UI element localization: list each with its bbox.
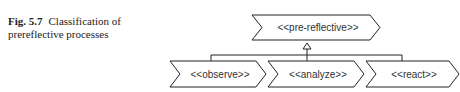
- generalization-connector: [211, 43, 402, 61]
- child-node-label: <<analyze>>: [289, 69, 347, 80]
- child-node-label: <<observe>>: [191, 69, 250, 80]
- child-node-analyze: <<analyze>>: [268, 61, 364, 87]
- child-node-react: <<react>>: [366, 61, 459, 87]
- child-node-observe: <<observe>>: [170, 61, 266, 87]
- inheritance-triangle-icon: [303, 43, 311, 49]
- classification-diagram: <<pre-reflective>> <<observe>> <<analyze…: [0, 0, 460, 92]
- parent-node-pre-reflective: <<pre-reflective>>: [252, 15, 380, 40]
- child-node-label: <<react>>: [391, 69, 437, 80]
- parent-node-label: <<pre-reflective>>: [277, 22, 358, 33]
